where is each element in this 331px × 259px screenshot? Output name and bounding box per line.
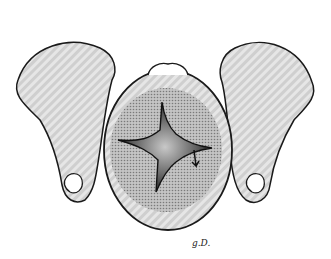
infant-head [104,63,232,230]
left-hand [17,43,115,202]
right-hand [220,43,314,203]
artist-signature: g.D. [192,238,210,248]
illustration: g.D. [0,0,331,259]
medical-illustration [0,0,331,259]
